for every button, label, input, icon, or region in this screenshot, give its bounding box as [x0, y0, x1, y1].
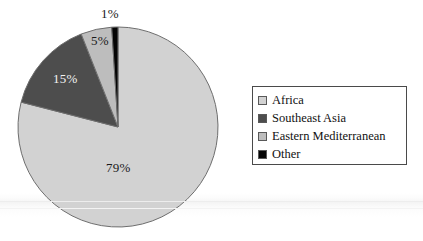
slice-label-eastern-mediterranean: 5% [91, 33, 109, 49]
legend-item: Southeast Asia [258, 109, 404, 127]
legend-swatch-icon [258, 114, 267, 123]
legend-swatch-icon [258, 132, 267, 141]
pie-chart-figure: 1% 5% 15% 79% AfricaSoutheast AsiaEaster… [0, 0, 423, 241]
slice-label-other: 1% [101, 6, 119, 22]
legend-item-list: AfricaSoutheast AsiaEastern Mediterranea… [258, 91, 404, 163]
pie-slice-group [18, 27, 218, 227]
legend-item: Eastern Mediterranean [258, 127, 404, 145]
legend-item-label: Other [272, 148, 300, 161]
legend-item: Other [258, 145, 404, 163]
legend-swatch-icon [258, 150, 267, 159]
legend-item-label: Eastern Mediterranean [272, 130, 385, 143]
chart-legend: AfricaSoutheast AsiaEastern Mediterranea… [252, 86, 407, 165]
legend-item-label: Southeast Asia [272, 112, 346, 125]
slice-label-africa: 79% [106, 160, 130, 176]
legend-item: Africa [258, 91, 404, 109]
legend-item-label: Africa [272, 94, 304, 107]
pie-chart-svg [0, 0, 245, 241]
pie-chart-plot-area: 1% 5% 15% 79% [0, 0, 245, 241]
legend-swatch-icon [258, 96, 267, 105]
slice-label-southeast-asia: 15% [53, 71, 77, 87]
